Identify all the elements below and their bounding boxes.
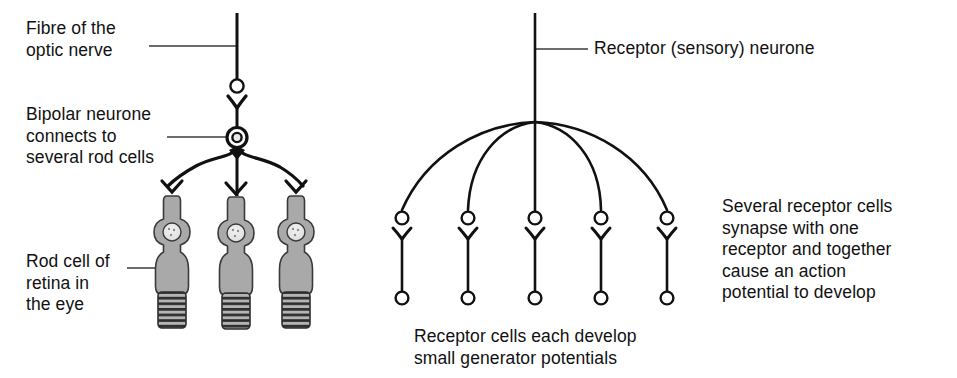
- label-receptor-sensory-neurone: Receptor (sensory) neurone: [594, 38, 815, 60]
- rod-cell-3-nucleolus: [294, 234, 296, 236]
- rod-cell-3-body: [278, 196, 314, 294]
- synapse-circle-bipolar: [230, 79, 243, 92]
- receptor-cell-2-synapse: [462, 212, 475, 225]
- bipolar-branch-right: [237, 148, 303, 186]
- rod-cell-2-outer-segment: [222, 293, 250, 329]
- label-rod-cell: Rod cell of retina in the eye: [26, 251, 110, 316]
- rod-cell-2-nucleolus: [234, 235, 236, 237]
- label-several-receptor-cells: Several receptor cells synapse with one …: [722, 196, 892, 304]
- diagram-canvas: Fibre of the optic nerve Bipolar neurone…: [0, 0, 957, 378]
- rod-cell-1-nucleolus: [170, 234, 172, 236]
- rod-cell-1-outer-segment: [158, 292, 186, 328]
- bipolar-branch-left: [168, 148, 237, 186]
- rod-cell-2-nucleus: [227, 224, 245, 242]
- rod-cell-2-nucleolus: [237, 230, 239, 232]
- receptor-cell-2-fork: [459, 228, 477, 239]
- rod-cell-2-nucleolus: [232, 229, 234, 231]
- rod-cell-1-nucleolus: [173, 229, 175, 231]
- receptor-cell-1-synapse: [396, 212, 409, 225]
- rod-cell-3: [278, 196, 314, 328]
- caption-generator-potentials: Receptor cells each develop small genera…: [414, 326, 637, 369]
- rod-cell-1: [154, 196, 190, 328]
- receptor-cell-3-fork: [526, 228, 544, 239]
- receptor-cell-5-fork: [658, 228, 676, 239]
- receptor-cell-1: [393, 212, 411, 305]
- rod-cell-1-nucleolus: [168, 228, 170, 230]
- receptor-cell-2-ending: [462, 292, 475, 305]
- bipolar-dendrite-fork: [228, 96, 246, 108]
- receptor-cell-5-ending: [661, 292, 674, 305]
- receptor-cell-4-synapse: [595, 212, 608, 225]
- rod-cell-3-outer-segment: [282, 292, 310, 328]
- receptor-cell-5-synapse: [661, 212, 674, 225]
- receptor-cell-5: [658, 212, 676, 305]
- label-fibre-optic-nerve: Fibre of the optic nerve: [26, 18, 116, 61]
- receptor-cell-1-fork: [393, 228, 411, 239]
- rod-cell-1-nucleus: [163, 223, 181, 241]
- rod-synapse-fork-3: [286, 181, 306, 192]
- receptor-cell-4-fork: [592, 228, 610, 239]
- rod-cell-1-body: [154, 196, 190, 294]
- receptor-cell-1-ending: [396, 292, 409, 305]
- receptor-cell-4-ending: [595, 292, 608, 305]
- receptor-cell-3: [526, 212, 544, 305]
- rod-cell-2: [218, 197, 254, 329]
- rod-cell-3-nucleolus: [292, 228, 294, 230]
- receptor-cell-4: [592, 212, 610, 305]
- receptor-cell-2: [459, 212, 477, 305]
- rod-cell-2-body: [218, 197, 254, 295]
- rod-cell-3-nucleolus: [297, 229, 299, 231]
- receptor-cell-3-synapse: [529, 212, 542, 225]
- receptor-cell-3-ending: [529, 292, 542, 305]
- rod-cell-3-nucleus: [287, 223, 305, 241]
- label-bipolar-neurone: Bipolar neurone connects to several rod …: [26, 104, 154, 169]
- bipolar-cell-body-nucleus: [232, 133, 241, 142]
- left-panel-group: [127, 13, 314, 329]
